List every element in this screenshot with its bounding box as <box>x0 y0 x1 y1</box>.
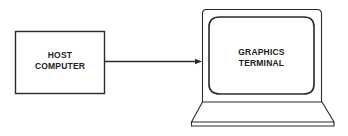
terminal-label-line2: TERMINAL <box>209 58 314 69</box>
host-computer-label: HOST COMPUTER <box>15 50 105 72</box>
host-label-line1: HOST <box>15 50 105 61</box>
terminal-label-line1: GRAPHICS <box>209 47 314 58</box>
host-label-line2: COMPUTER <box>15 61 105 72</box>
connection-arrow <box>105 59 202 64</box>
terminal-base <box>192 102 335 122</box>
graphics-terminal-label: GRAPHICS TERMINAL <box>209 47 314 69</box>
